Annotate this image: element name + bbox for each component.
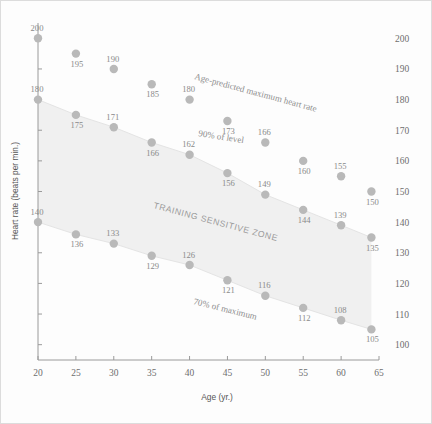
data-point-label: 156 bbox=[222, 178, 236, 188]
y-tick-label: 200 bbox=[395, 34, 410, 44]
data-point-label: 136 bbox=[70, 239, 84, 249]
data-point-label: 162 bbox=[182, 139, 195, 149]
data-point bbox=[223, 117, 231, 125]
data-point-label: 180 bbox=[182, 84, 195, 94]
data-point-label: 129 bbox=[146, 261, 159, 271]
data-point-label: 105 bbox=[366, 334, 379, 344]
data-point-label: 150 bbox=[366, 197, 379, 207]
data-point bbox=[367, 233, 375, 241]
chart-page: 20253035404550556065 1001101201301401501… bbox=[0, 0, 432, 424]
data-point bbox=[148, 80, 156, 88]
data-point-label: 195 bbox=[70, 59, 83, 69]
y-axis-tick-labels: 100110120130140150160170180190200 bbox=[395, 34, 410, 350]
data-point bbox=[110, 123, 118, 131]
data-point bbox=[110, 65, 118, 73]
data-point bbox=[34, 95, 42, 103]
y-tick-label: 180 bbox=[395, 95, 410, 105]
y-tick-label: 160 bbox=[395, 156, 410, 166]
x-tick-label: 35 bbox=[147, 368, 157, 378]
data-point bbox=[34, 218, 42, 226]
data-point-label: 116 bbox=[258, 280, 271, 290]
data-point-label: 121 bbox=[222, 285, 235, 295]
data-point bbox=[223, 276, 231, 284]
data-point bbox=[185, 95, 193, 103]
data-point-label: 200 bbox=[31, 23, 44, 33]
data-point-label: 190 bbox=[106, 54, 119, 64]
x-axis-title: Age (yr.) bbox=[201, 392, 233, 402]
data-point-label: 155 bbox=[334, 161, 347, 171]
x-tick-label: 50 bbox=[261, 368, 271, 378]
data-point-label: 135 bbox=[366, 243, 379, 253]
x-tick-label: 25 bbox=[71, 368, 81, 378]
data-point bbox=[261, 292, 269, 300]
data-point bbox=[367, 325, 375, 333]
data-point bbox=[185, 151, 193, 159]
data-point-label: 171 bbox=[106, 112, 119, 122]
data-point-label: 126 bbox=[182, 250, 196, 260]
data-point bbox=[110, 239, 118, 247]
x-tick-label: 20 bbox=[33, 368, 43, 378]
y-tick-label: 110 bbox=[395, 310, 409, 320]
data-point bbox=[337, 172, 345, 180]
data-point bbox=[299, 157, 307, 165]
data-point-label: 139 bbox=[334, 210, 347, 220]
data-point bbox=[148, 138, 156, 146]
y-tick-label: 190 bbox=[395, 64, 410, 74]
annotation-seventy-percent: 70% of maximum bbox=[193, 296, 258, 321]
data-point-label: 175 bbox=[70, 120, 83, 130]
data-point-label: 140 bbox=[31, 207, 44, 217]
data-point bbox=[72, 111, 80, 119]
y-axis-title: Heart rate (beats per min.) bbox=[10, 142, 20, 240]
data-point-label: 149 bbox=[258, 179, 271, 189]
data-point-label: 160 bbox=[298, 166, 311, 176]
data-point-label: 166 bbox=[146, 148, 160, 158]
data-point bbox=[72, 230, 80, 238]
data-point-label: 112 bbox=[298, 313, 311, 323]
heart-rate-scatter-chart: 20253035404550556065 1001101201301401501… bbox=[1, 1, 432, 424]
data-point bbox=[72, 49, 80, 57]
data-point-label: 144 bbox=[298, 215, 312, 225]
data-point-label: 180 bbox=[31, 84, 44, 94]
x-tick-label: 40 bbox=[185, 368, 195, 378]
y-tick-label: 100 bbox=[395, 340, 410, 350]
y-tick-label: 120 bbox=[395, 279, 410, 289]
data-point bbox=[34, 34, 42, 42]
data-point bbox=[261, 190, 269, 198]
y-tick-label: 150 bbox=[395, 187, 410, 197]
data-point-label: 133 bbox=[106, 228, 119, 238]
data-point bbox=[261, 138, 269, 146]
annotation-max-heart-rate: Age-predicted maximum heart rate bbox=[193, 71, 317, 113]
x-tick-label: 55 bbox=[298, 368, 308, 378]
y-tick-label: 170 bbox=[395, 126, 410, 136]
x-tick-label: 30 bbox=[109, 368, 119, 378]
data-point-label: 108 bbox=[334, 305, 347, 315]
x-axis-tick-labels: 20253035404550556065 bbox=[33, 368, 384, 378]
data-point bbox=[185, 261, 193, 269]
x-tick-label: 65 bbox=[374, 368, 384, 378]
data-point bbox=[223, 169, 231, 177]
x-tick-label: 60 bbox=[336, 368, 346, 378]
x-tick-label: 45 bbox=[223, 368, 233, 378]
data-point bbox=[148, 252, 156, 260]
annotation-ninety-percent: 90% of level bbox=[198, 128, 245, 145]
data-point bbox=[367, 187, 375, 195]
y-tick-label: 130 bbox=[395, 248, 410, 258]
data-point bbox=[299, 206, 307, 214]
data-point bbox=[337, 316, 345, 324]
data-point-label: 166 bbox=[258, 127, 272, 137]
data-point-label: 185 bbox=[146, 89, 159, 99]
data-point bbox=[299, 304, 307, 312]
data-point bbox=[337, 221, 345, 229]
y-tick-label: 140 bbox=[395, 218, 410, 228]
